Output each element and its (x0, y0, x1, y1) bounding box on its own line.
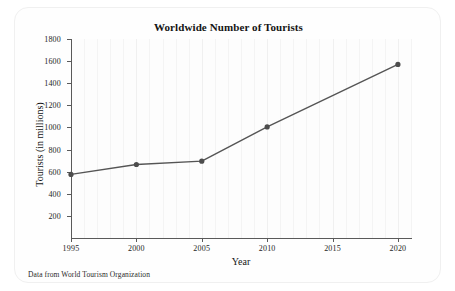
x-tick-label: 2020 (390, 244, 407, 253)
gridline-vertical (411, 39, 412, 238)
chart-figure: Worldwide Number of Tourists 20040060080… (14, 7, 441, 283)
x-tick-mark (136, 238, 137, 242)
y-tick-label: 800 (48, 145, 61, 154)
y-tick-label: 1200 (44, 101, 61, 110)
data-point-marker (199, 159, 204, 164)
data-point-marker (265, 124, 270, 129)
y-tick-label: 1600 (44, 57, 61, 66)
data-point-marker (68, 172, 73, 177)
y-tick-label: 1800 (44, 35, 61, 44)
x-tick-label: 2010 (259, 244, 276, 253)
x-tick-mark (333, 238, 334, 242)
x-tick-label: 2015 (324, 244, 341, 253)
data-line (71, 64, 398, 174)
x-tick-label: 2000 (128, 244, 145, 253)
x-axis-line (71, 238, 412, 239)
y-tick-label: 400 (48, 189, 61, 198)
y-tick-label: 1000 (44, 123, 61, 132)
source-note: Data from World Tourism Organization (28, 270, 150, 279)
x-tick-mark (267, 238, 268, 242)
chart-title: Worldwide Number of Tourists (15, 21, 442, 33)
data-point-marker (134, 162, 139, 167)
y-tick-label: 600 (48, 167, 61, 176)
y-tick-label: 200 (48, 211, 61, 220)
x-tick-label: 1995 (63, 244, 80, 253)
series-line-worldwide-tourists (71, 39, 411, 238)
x-tick-label: 2005 (193, 244, 210, 253)
y-axis-label: Tourists (in millions) (34, 65, 45, 225)
x-tick-mark (71, 238, 72, 242)
data-markers (68, 62, 400, 177)
y-tick-label: 1400 (44, 79, 61, 88)
x-tick-mark (398, 238, 399, 242)
x-axis-label: Year (71, 256, 411, 267)
x-tick-mark (202, 238, 203, 242)
data-point-marker (395, 62, 400, 67)
